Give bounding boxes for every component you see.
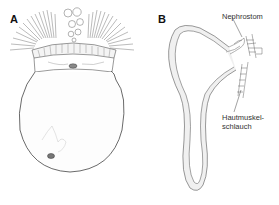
anus-region <box>48 154 55 159</box>
label-nephrostom: Nephrostom <box>222 12 263 21</box>
panel-label-a: A <box>10 13 18 25</box>
bubbles <box>64 8 83 42</box>
figure-canvas <box>0 0 279 205</box>
label-hautmuskel-line2: schlauch <box>222 122 252 131</box>
panel-a-illustration <box>10 8 134 172</box>
label-hautmuskel-line1: Hautmuskel- <box>222 113 264 122</box>
leader-hautmuskel <box>234 90 241 112</box>
apical-organ <box>69 64 77 68</box>
panel-b-illustration <box>169 17 262 190</box>
body-wall <box>237 34 262 98</box>
hyposphere-body <box>19 71 124 172</box>
cilia-right <box>88 10 134 50</box>
panel-label-b: B <box>158 13 166 25</box>
nephrostome-coils <box>226 38 245 54</box>
